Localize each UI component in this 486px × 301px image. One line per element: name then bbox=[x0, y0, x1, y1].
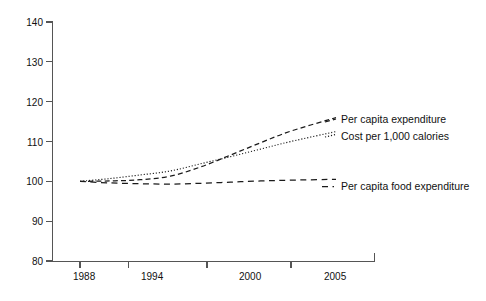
y-tick-label-90: 90 bbox=[32, 216, 44, 227]
x-tick-label-2000: 2000 bbox=[239, 271, 262, 282]
legend-label-per-capita-expenditure: Per capita expenditure bbox=[341, 113, 446, 125]
y-tick-label-110: 110 bbox=[27, 137, 43, 148]
legend-label-cost-per-1000-calories: Cost per 1,000 calories bbox=[341, 130, 449, 142]
y-tick-label-80: 80 bbox=[32, 256, 44, 267]
chart-screenshot: 140 130 120 110 100 90 80 1988 1994 2000… bbox=[0, 0, 486, 301]
x-tick-label-2005: 2005 bbox=[324, 271, 347, 282]
y-tick-label-140: 140 bbox=[26, 17, 43, 28]
x-tick-label-1994: 1994 bbox=[141, 271, 164, 282]
y-tick-label-100: 100 bbox=[26, 176, 43, 187]
y-tick-label-120: 120 bbox=[26, 97, 43, 108]
x-tick-label-1988: 1988 bbox=[73, 271, 96, 282]
legend-label-per-capita-food-expenditure: Per capita food expenditure bbox=[341, 180, 470, 192]
y-tick-label-130: 130 bbox=[26, 57, 43, 68]
line-chart: 140 130 120 110 100 90 80 1988 1994 2000… bbox=[0, 0, 486, 301]
